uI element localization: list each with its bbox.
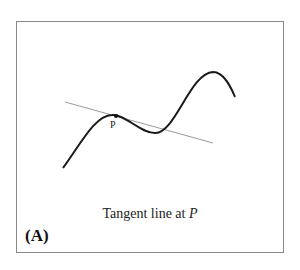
- function-curve: [63, 72, 235, 168]
- panel-label: (A): [25, 226, 49, 246]
- tangent-line: [65, 102, 213, 143]
- caption-variable: P: [189, 206, 198, 221]
- figure-caption: Tangent line at P: [0, 206, 300, 222]
- point-p-marker: [114, 114, 118, 118]
- caption-text: Tangent line at: [102, 206, 189, 221]
- point-label: P: [110, 119, 116, 130]
